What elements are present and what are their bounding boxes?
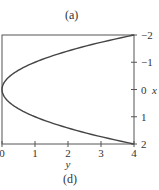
y-tick-label: 0 — [141, 84, 147, 96]
y-tick-label: 1 — [141, 111, 147, 123]
y-tick-label: 2 — [141, 138, 147, 150]
parabola-curve — [2, 35, 134, 144]
y-tick-label: −2 — [141, 29, 153, 41]
y-tick-label: −1 — [141, 56, 153, 68]
chart: 01234 −2−1012 y x — [0, 0, 159, 190]
bottom-caption: (d) — [63, 172, 77, 187]
x-tick-label: 1 — [32, 147, 38, 159]
x-tick-label: 4 — [131, 147, 137, 159]
x-tick-label: 3 — [98, 147, 104, 159]
x-tick-label: 0 — [0, 147, 5, 159]
x-axis-label: y — [65, 158, 71, 170]
y-axis-label: x — [151, 84, 157, 96]
